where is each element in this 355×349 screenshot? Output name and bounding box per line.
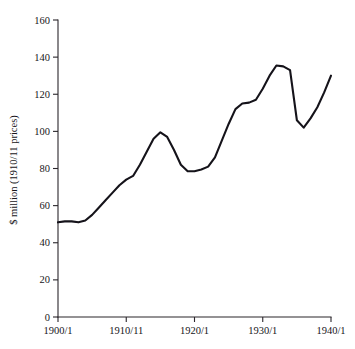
y-tick-label: 140 (34, 52, 50, 63)
x-tick-label: 1920/1 (180, 325, 209, 336)
x-tick-label: 1910/11 (109, 325, 143, 336)
y-tick-label: 0 (45, 312, 50, 323)
y-tick-label: 20 (40, 274, 51, 285)
x-tick-label: 1930/1 (248, 325, 277, 336)
y-tick-label: 120 (34, 89, 50, 100)
y-tick-label: 100 (34, 126, 50, 137)
y-axis-title: $ million (1910/11 prices) (8, 115, 20, 225)
y-axis: 020406080100120140160 (34, 15, 58, 323)
series-line (58, 65, 331, 222)
x-tick-label: 1900/1 (43, 325, 72, 336)
chart-figure: 020406080100120140160 1900/11910/111920/… (0, 0, 355, 349)
y-tick-label: 160 (34, 15, 50, 26)
y-tick-label: 80 (40, 163, 51, 174)
x-axis: 1900/11910/111920/11930/11940/1 (43, 317, 345, 336)
chart-plot-area: 020406080100120140160 1900/11910/111920/… (0, 0, 355, 349)
data-series-group (58, 65, 331, 222)
y-tick-label: 40 (40, 237, 51, 248)
y-tick-label: 60 (40, 200, 51, 211)
x-tick-label: 1940/1 (316, 325, 345, 336)
